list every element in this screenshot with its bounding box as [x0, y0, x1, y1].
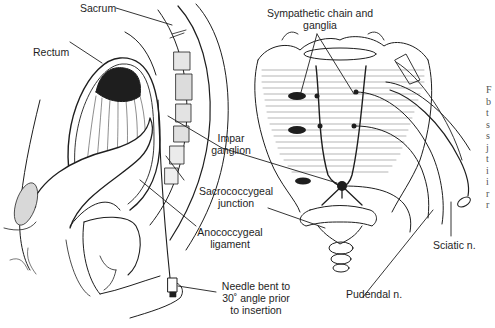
label-sympathetic-chain: Sympathetic chain and ganglia: [260, 7, 380, 31]
label-sciatic-nerve: Sciatic n.: [433, 239, 476, 251]
sacral-vertebrae: [165, 52, 192, 184]
impar-ganglion-figure: Sacrum Rectum Impar ganglion Sacrococcyg…: [0, 0, 495, 328]
label-rectum: Rectum: [33, 46, 69, 58]
figure-caption-fragment: F b t s s j t i i r r: [486, 84, 492, 211]
anatomy-illustration: [0, 0, 495, 328]
label-sacrococcygeal-junction: Sacrococcygeal junction: [186, 185, 286, 209]
label-impar-ganglion: Impar ganglion: [200, 132, 262, 156]
label-pudendal-nerve: Pudendal n.: [346, 288, 402, 300]
anterior-view-drawing: [255, 32, 472, 272]
coccyx: [300, 206, 376, 273]
label-sacrum: Sacrum: [80, 2, 116, 14]
label-needle-bent: Needle bent to 30˚ angle prior to insert…: [216, 280, 296, 316]
label-anococcygeal-ligament: Anococcygeal ligament: [195, 226, 265, 250]
